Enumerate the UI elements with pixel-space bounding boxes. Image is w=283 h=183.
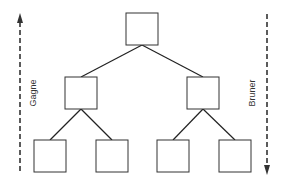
connector-midleft-leaf2 [81, 109, 112, 140]
connector-midright-leaf4 [203, 109, 235, 140]
node-leaf-2 [96, 140, 128, 172]
node-leaf-4 [219, 140, 251, 172]
node-mid-right [187, 77, 219, 109]
arrow-down-icon [264, 165, 270, 175]
node-leaf-1 [34, 140, 66, 172]
right-axis-arrow [264, 14, 270, 175]
node-leaf-3 [157, 140, 189, 172]
left-axis-arrow [17, 13, 23, 173]
connector-midleft-leaf1 [50, 109, 81, 140]
connector-root-midright [142, 45, 203, 77]
node-mid-left [65, 77, 97, 109]
left-axis-label: Gagne [28, 79, 38, 106]
right-axis-label: Bruner [247, 79, 257, 106]
connector-midright-leaf3 [173, 109, 203, 140]
connector-root-midleft [81, 45, 142, 77]
arrow-up-icon [17, 13, 23, 23]
node-root [126, 13, 158, 45]
hierarchy-diagram [0, 0, 283, 183]
